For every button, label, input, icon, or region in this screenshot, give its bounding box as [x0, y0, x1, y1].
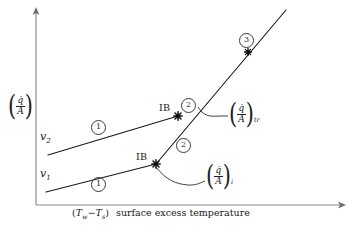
- callout-tr-close-paren: ): [246, 101, 254, 127]
- callout-tr-open-paren: (: [229, 101, 237, 127]
- curve-label-v2-subscript: 2: [46, 137, 50, 145]
- y-label-denominator: A: [16, 107, 25, 116]
- boiling-curve-figure: (q̇A) (Tw−Ts)surface excess temperature …: [0, 0, 354, 236]
- label-ib-lower: IB: [136, 152, 147, 162]
- callout-i-subscript: i: [231, 179, 233, 187]
- x-label-text: surface excess temperature: [109, 207, 250, 218]
- y-axis: [33, 7, 40, 205]
- curve-label-v1-subscript: 1: [46, 174, 50, 182]
- marker-ib-lower: [152, 160, 160, 168]
- y-label-fraction: q̇A: [16, 96, 25, 116]
- callout-i-close-paren: ): [223, 163, 231, 189]
- y-label-numerator: q̇: [16, 96, 25, 105]
- x-label-minus: −: [88, 207, 96, 218]
- region-label-1-lower: 1: [91, 177, 106, 192]
- callout-tr-fraction: q̇A: [237, 104, 246, 124]
- region-label-2-lower: 2: [176, 138, 191, 153]
- label-ib-upper: IB: [159, 103, 170, 113]
- y-axis-label: (q̇A): [8, 96, 33, 116]
- callout-tr-subscript: tr: [254, 117, 260, 125]
- marker-region-3: [244, 48, 251, 55]
- callout-i-numerator: q̇: [214, 166, 223, 175]
- callout-tr-denominator: A: [237, 115, 246, 124]
- callout-leader-i: [156, 167, 205, 185]
- callout-tr-numerator: q̇: [237, 104, 246, 113]
- region-label-2-upper: 2: [181, 98, 196, 113]
- y-label-open-paren: (: [8, 93, 16, 119]
- marker-ib-upper: [174, 112, 182, 120]
- curve-nucleate-boiling: [156, 10, 286, 164]
- y-label-close-paren: ): [25, 93, 33, 119]
- curve-v2: [48, 116, 178, 155]
- callout-q-a-i: (q̇A)i: [206, 166, 233, 186]
- callout-i-denominator: A: [214, 177, 223, 186]
- x-axis-label: (Tw−Ts)surface excess temperature: [72, 208, 250, 220]
- figure-canvas: [0, 0, 354, 236]
- callout-i-open-paren: (: [206, 163, 214, 189]
- region-label-1-upper: 1: [91, 120, 106, 135]
- region-label-3: 3: [239, 33, 254, 48]
- curve-label-v2: v2: [40, 131, 51, 145]
- callout-q-a-tr: (q̇A)tr: [229, 104, 260, 124]
- callout-i-fraction: q̇A: [214, 166, 223, 186]
- curve-label-v1: v1: [40, 168, 51, 182]
